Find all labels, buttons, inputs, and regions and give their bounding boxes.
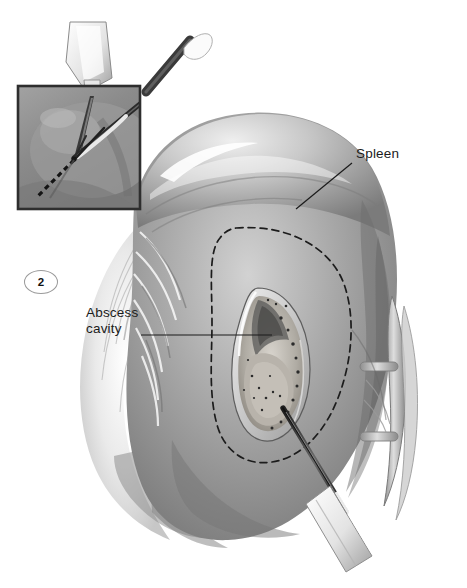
illustration-canvas: Spleen Abscesscavity 2 bbox=[0, 0, 467, 588]
illustration-artwork bbox=[0, 0, 467, 588]
abscess-label-line2: cavity bbox=[86, 321, 122, 336]
abscess-cavity-label: Abscesscavity bbox=[86, 305, 138, 337]
spleen-label: Spleen bbox=[356, 146, 399, 162]
figure-number-badge: 2 bbox=[24, 270, 58, 294]
abscess-label-line1: Abscess bbox=[86, 305, 138, 320]
